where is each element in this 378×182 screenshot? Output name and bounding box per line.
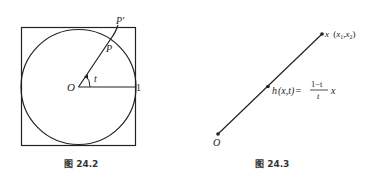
midpoint-func-label: h(x,t)= bbox=[272, 85, 301, 97]
origin-label: O bbox=[213, 137, 220, 148]
segment-o-x bbox=[218, 34, 322, 134]
point-o-dot bbox=[216, 132, 220, 136]
origin-label: O bbox=[67, 81, 75, 93]
radius-one-label: 1 bbox=[136, 82, 141, 93]
fraction-denominator: t bbox=[317, 91, 320, 101]
point-x-dot bbox=[320, 32, 324, 36]
point-p-label: P bbox=[105, 43, 112, 54]
figure-caption-24-3: 图 24.3 bbox=[255, 159, 289, 169]
ray-op-prime bbox=[79, 25, 119, 87]
figure-24-3: O x (x1,x2) h(x,t)= 1−t t x 图 24.3 bbox=[213, 29, 356, 169]
diagram-canvas: O t P P′ 1 图 24.2 O x (x1,x2) h(x,t)= 1−… bbox=[0, 0, 378, 182]
point-h-dot bbox=[266, 85, 270, 89]
endpoint-label: x (x1,x2) bbox=[324, 29, 356, 40]
fraction-numerator: 1−t bbox=[311, 79, 323, 89]
fraction-tail: x bbox=[330, 85, 336, 96]
point-p-prime-label: P′ bbox=[115, 15, 125, 26]
figure-24-2: O t P P′ 1 图 24.2 bbox=[21, 15, 141, 169]
figure-caption-24-2: 图 24.2 bbox=[64, 159, 98, 169]
angle-label: t bbox=[94, 73, 97, 84]
